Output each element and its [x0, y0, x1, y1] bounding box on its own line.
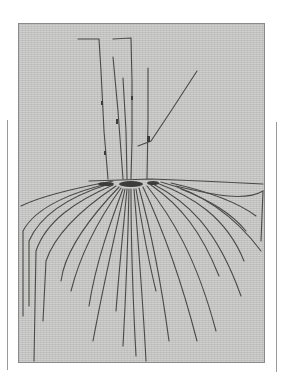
- right-frame-line: [276, 122, 277, 372]
- fabric-photo: [18, 23, 265, 363]
- left-frame-line: [7, 120, 8, 370]
- thread-drawing: [19, 24, 266, 364]
